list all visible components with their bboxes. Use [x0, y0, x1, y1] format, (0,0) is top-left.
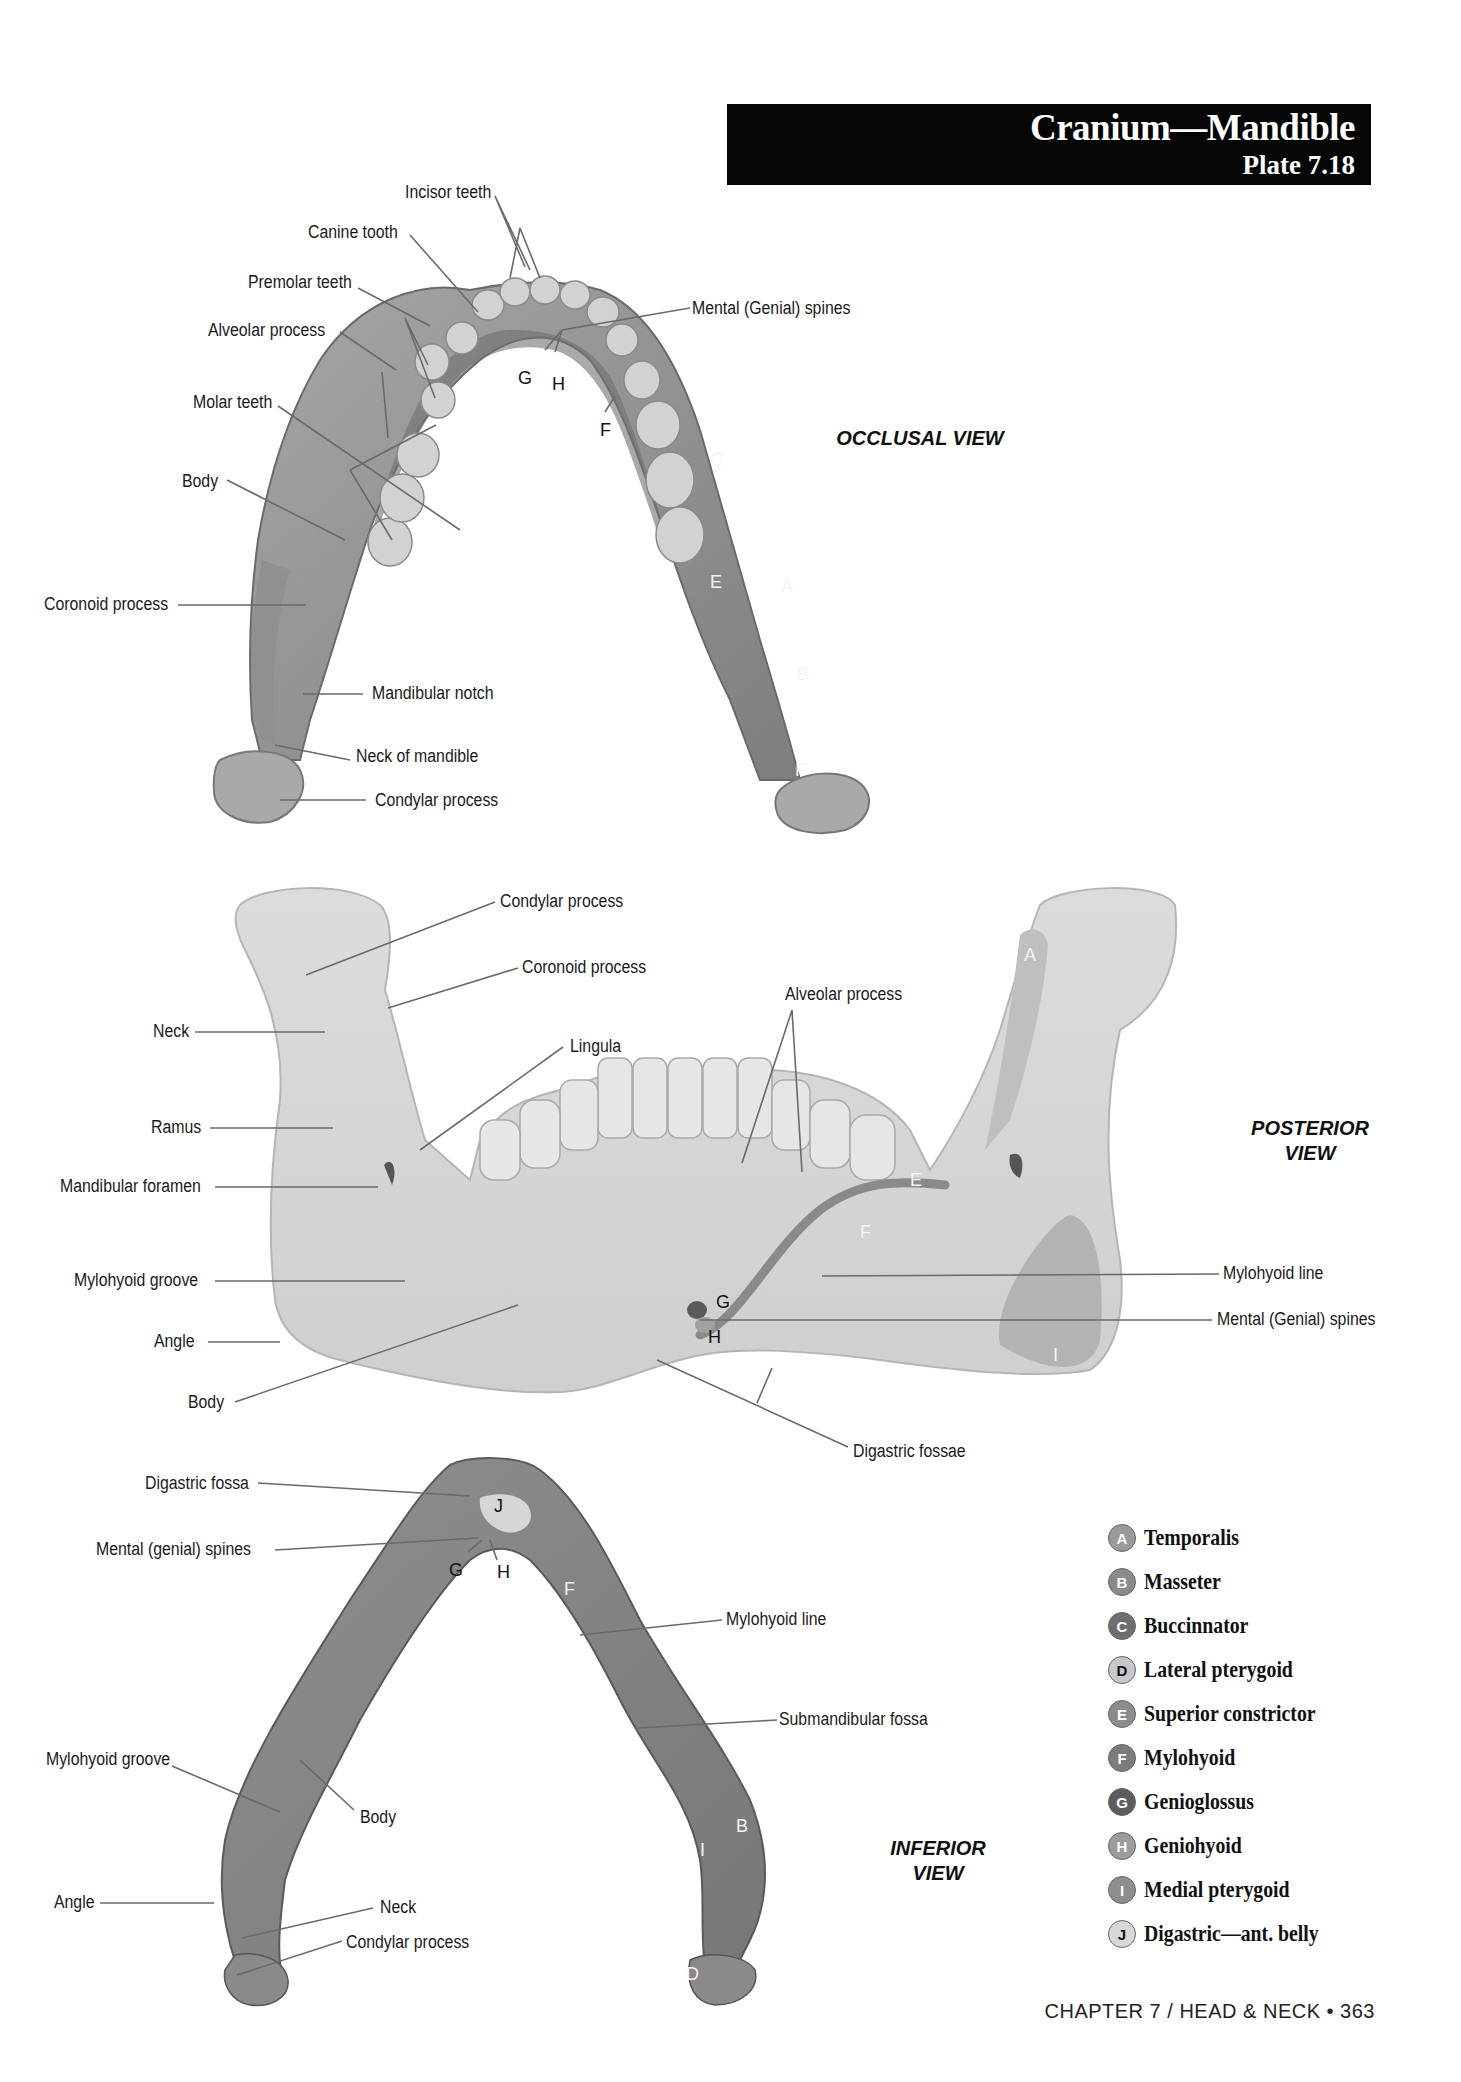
- marker-c: C: [710, 450, 723, 470]
- legend-badge-icon: G: [1108, 1788, 1136, 1816]
- legend-badge-icon: E: [1108, 1700, 1136, 1728]
- marker-g: G: [716, 1292, 730, 1312]
- label-lingula: Lingula: [570, 1036, 621, 1056]
- marker-g: G: [449, 1560, 463, 1580]
- label-mental-spines: Mental (genial) spines: [96, 1539, 251, 1559]
- view-label-occlusal: OCCLUSAL VIEW: [820, 426, 1020, 451]
- marker-b: B: [736, 1816, 748, 1836]
- label-alveolar-process: Alveolar process: [785, 984, 902, 1004]
- label-condylar-process: Condylar process: [375, 790, 498, 810]
- label-body: Body: [360, 1807, 396, 1827]
- marker-g: G: [518, 368, 532, 388]
- marker-d: D: [686, 1964, 699, 1984]
- label-mylohyoid-groove: Mylohyoid groove: [46, 1749, 170, 1769]
- label-mylohyoid-line: Mylohyoid line: [726, 1609, 826, 1629]
- legend-item-c: CBuccinnator: [1108, 1604, 1347, 1648]
- occlusal-view-bone: [214, 276, 869, 833]
- label-digastric-fossa: Digastric fossa: [145, 1473, 249, 1493]
- marker-j: J: [494, 1496, 503, 1516]
- marker-e: E: [910, 1170, 922, 1190]
- legend-item-h: HGeniohyoid: [1108, 1824, 1347, 1868]
- marker-f: F: [564, 1579, 575, 1599]
- label-alveolar-process: Alveolar process: [208, 320, 325, 340]
- label-coronoid-process: Coronoid process: [522, 957, 646, 977]
- legend-label: Buccinnator: [1144, 1613, 1248, 1639]
- marker-e: E: [710, 572, 722, 592]
- legend-badge-icon: A: [1108, 1524, 1136, 1552]
- legend-item-g: GGenioglossus: [1108, 1780, 1347, 1824]
- label-mylohyoid-groove: Mylohyoid groove: [74, 1270, 198, 1290]
- legend-label: Mylohyoid: [1144, 1745, 1235, 1771]
- legend-label: Genioglossus: [1144, 1789, 1254, 1815]
- legend-label: Superior constrictor: [1144, 1701, 1316, 1727]
- legend-label: Medial pterygoid: [1144, 1877, 1290, 1903]
- label-canine-tooth: Canine tooth: [308, 222, 398, 242]
- label-submandibular-fossa: Submandibular fossa: [779, 1709, 928, 1729]
- marker-a: A: [1024, 945, 1036, 965]
- label-mental-spines: Mental (Genial) spines: [692, 298, 850, 318]
- view-label-inferior: INFERIOR VIEW: [858, 1836, 1018, 1886]
- legend-item-f: FMylohyoid: [1108, 1736, 1347, 1780]
- label-mental-spines: Mental (Genial) spines: [1217, 1309, 1375, 1329]
- label-neck: Neck: [380, 1897, 416, 1917]
- muscle-legend: ATemporalisBMasseterCBuccinnatorDLateral…: [1108, 1516, 1347, 1956]
- label-neck: Neck: [153, 1021, 189, 1041]
- label-mandibular-notch: Mandibular notch: [372, 683, 494, 703]
- legend-item-b: BMasseter: [1108, 1560, 1347, 1604]
- legend-badge-icon: J: [1108, 1920, 1136, 1948]
- view-label-posterior: POSTERIOR VIEW: [1230, 1116, 1390, 1166]
- label-body: Body: [188, 1392, 224, 1412]
- label-coronoid-process: Coronoid process: [44, 594, 168, 614]
- label-digastric-fossae: Digastric fossae: [853, 1441, 966, 1461]
- marker-h: H: [552, 374, 565, 394]
- label-ramus: Ramus: [151, 1117, 201, 1137]
- page-footer: CHAPTER 7 / HEAD & NECK • 363: [1045, 2000, 1376, 2023]
- label-condylar-process: Condylar process: [346, 1932, 469, 1952]
- marker-i: I: [1053, 1345, 1058, 1365]
- marker-h: H: [497, 1562, 510, 1582]
- legend-badge-icon: F: [1108, 1744, 1136, 1772]
- legend-item-a: ATemporalis: [1108, 1516, 1347, 1560]
- legend-label: Temporalis: [1144, 1525, 1239, 1551]
- legend-label: Geniohyoid: [1144, 1833, 1242, 1859]
- legend-badge-icon: I: [1108, 1876, 1136, 1904]
- marker-a: A: [781, 576, 793, 596]
- label-condylar-process: Condylar process: [500, 891, 623, 911]
- legend-label: Masseter: [1144, 1569, 1221, 1595]
- legend-item-j: JDigastric—ant. belly: [1108, 1912, 1347, 1956]
- label-incisor-teeth: Incisor teeth: [405, 182, 491, 202]
- legend-badge-icon: C: [1108, 1612, 1136, 1640]
- legend-badge-icon: D: [1108, 1656, 1136, 1684]
- marker-b: B: [797, 664, 809, 684]
- legend-badge-icon: H: [1108, 1832, 1136, 1860]
- marker-f: F: [860, 1222, 871, 1242]
- label-premolar-teeth: Premolar teeth: [248, 272, 352, 292]
- marker-f-right: F: [795, 760, 806, 780]
- legend-label: Digastric—ant. belly: [1144, 1921, 1319, 1947]
- label-molar-teeth: Molar teeth: [193, 392, 272, 412]
- label-mandibular-foramen: Mandibular foramen: [60, 1176, 201, 1196]
- legend-badge-icon: B: [1108, 1568, 1136, 1596]
- legend-item-i: IMedial pterygoid: [1108, 1868, 1347, 1912]
- marker-i: I: [700, 1840, 705, 1860]
- label-neck-of-mandible: Neck of mandible: [356, 746, 478, 766]
- marker-f: F: [600, 420, 611, 440]
- label-angle: Angle: [154, 1331, 195, 1351]
- legend-item-e: ESuperior constrictor: [1108, 1692, 1347, 1736]
- legend-label: Lateral pterygoid: [1144, 1657, 1293, 1683]
- label-angle: Angle: [54, 1892, 95, 1912]
- marker-h: H: [708, 1327, 721, 1347]
- label-body: Body: [182, 471, 218, 491]
- label-mylohyoid-line: Mylohyoid line: [1223, 1263, 1323, 1283]
- legend-item-d: DLateral pterygoid: [1108, 1648, 1347, 1692]
